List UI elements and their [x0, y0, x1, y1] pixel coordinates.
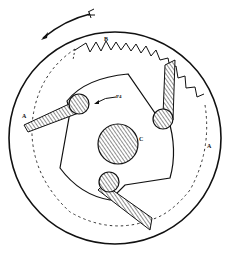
ratchet-diagram: B A A C P4 — [0, 0, 231, 256]
diagram-graphic — [0, 0, 231, 256]
label-track-A-left: A — [22, 113, 26, 119]
pawl-top-right — [153, 60, 175, 129]
label-pawl-motion: P4 — [116, 94, 122, 99]
label-hub-C: C — [139, 136, 143, 142]
label-spring-B: B — [104, 36, 108, 42]
label-track-A-right: A — [207, 143, 211, 149]
hub-C — [98, 124, 138, 164]
